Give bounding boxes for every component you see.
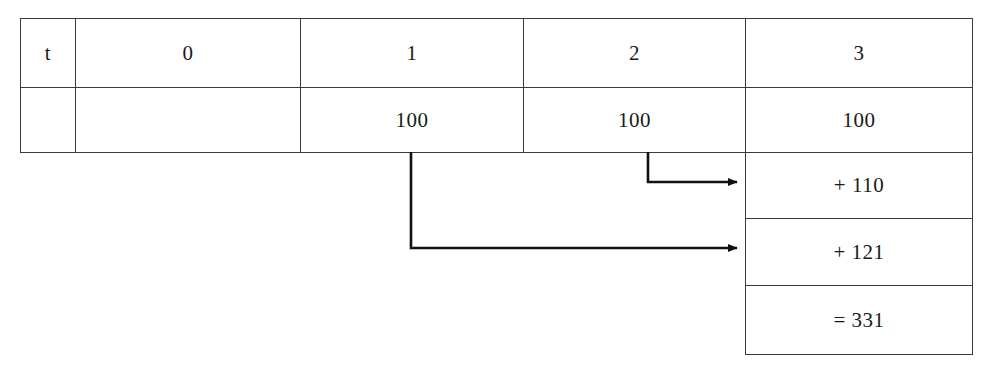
value-cell-2: 100 — [523, 87, 746, 153]
header-cell-t: t — [20, 18, 76, 88]
arrow-from-t2-to-plus110 — [648, 152, 737, 182]
header-cell-0: 0 — [75, 18, 301, 88]
accumulation-cell-plus110: + 110 — [745, 152, 973, 219]
header-cell-3: 3 — [745, 18, 973, 88]
header-cell-1: 1 — [300, 18, 524, 88]
value-cell-t — [20, 87, 76, 153]
accumulation-cell-plus121: + 121 — [745, 218, 973, 286]
header-cell-2: 2 — [523, 18, 746, 88]
value-cell-0 — [75, 87, 301, 153]
cashflow-table-diagram: t 0 1 2 3 100 100 100 + 110 + 121 = 331 — [0, 0, 995, 373]
value-cell-3: 100 — [745, 87, 973, 153]
accumulation-cell-total: = 331 — [745, 285, 973, 355]
value-cell-1: 100 — [300, 87, 524, 153]
arrow-from-t1-to-plus121 — [411, 152, 737, 248]
